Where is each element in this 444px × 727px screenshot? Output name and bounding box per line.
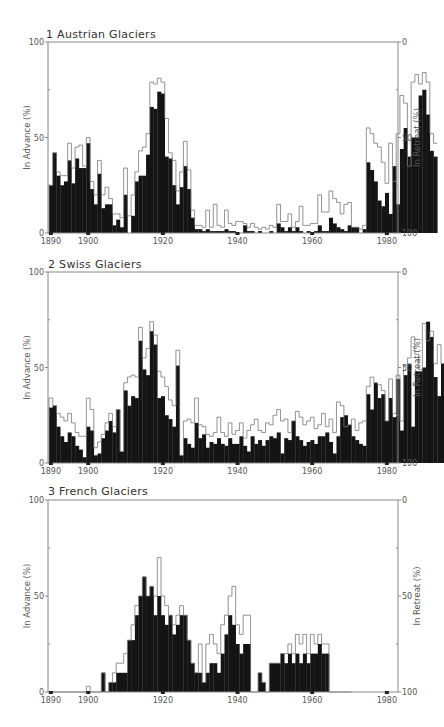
- advancing-bar: [422, 368, 426, 464]
- advancing-bar: [336, 227, 340, 233]
- advancing-bar: [213, 444, 217, 463]
- right-tick-label: 100: [402, 459, 417, 468]
- advancing-bar: [157, 92, 161, 233]
- x-tick: [161, 462, 165, 465]
- advancing-bar: [292, 421, 296, 463]
- advancing-bar: [258, 440, 262, 463]
- advancing-bar: [176, 204, 180, 233]
- advancing-bar: [336, 436, 340, 463]
- x-tick: [385, 691, 389, 694]
- right-tick-label: 100: [402, 229, 417, 238]
- advancing-bar: [243, 446, 247, 463]
- left-tick-label: 100: [29, 38, 44, 47]
- x-tick-label: 1900: [78, 237, 98, 246]
- advancing-bar: [49, 185, 53, 233]
- advancing-bar: [146, 596, 150, 692]
- advancing-bar: [146, 155, 150, 233]
- advancing-bar: [127, 640, 131, 692]
- x-tick: [49, 462, 53, 465]
- right-tick-label: 100: [402, 688, 417, 697]
- advancing-bar: [83, 168, 87, 233]
- x-tick-label: 1980: [377, 467, 397, 476]
- advancing-bar: [105, 204, 109, 233]
- advancing-bar: [228, 438, 232, 463]
- x-tick-label: 1980: [377, 237, 397, 246]
- x-tick-label: 1960: [302, 696, 322, 705]
- advancing-bar: [135, 615, 139, 692]
- advancing-bar: [109, 682, 113, 692]
- advancing-bar: [329, 218, 333, 233]
- advancing-bar: [400, 149, 404, 233]
- advancing-bar: [83, 457, 87, 463]
- x-tick: [49, 232, 53, 235]
- advancing-bar: [292, 663, 296, 692]
- advancing-bar: [363, 446, 367, 463]
- advancing-bar: [295, 654, 299, 692]
- advancing-bar: [127, 406, 131, 463]
- x-tick: [310, 232, 314, 235]
- left-tick-label: 100: [29, 268, 44, 277]
- x-tick: [86, 232, 90, 235]
- advancing-bar: [434, 157, 438, 233]
- advancing-bar: [176, 625, 180, 692]
- advancing-bar: [154, 615, 158, 692]
- x-tick: [385, 462, 389, 465]
- advancing-bar: [198, 438, 202, 463]
- right-tick-label: 0: [402, 38, 407, 47]
- advancing-bar: [49, 408, 53, 463]
- advancing-bar: [288, 654, 292, 692]
- advancing-bar: [239, 654, 243, 692]
- advancing-bar: [322, 654, 326, 692]
- advancing-bar: [224, 634, 228, 692]
- y-axis-label-retreat: In Retreat (%): [412, 566, 422, 625]
- advancing-bar: [288, 440, 292, 463]
- advancing-bar: [325, 432, 329, 463]
- advancing-bar: [150, 107, 154, 233]
- advancing-bar: [366, 162, 370, 233]
- advancing-bar: [266, 440, 270, 463]
- advancing-bar: [370, 410, 374, 463]
- advancing-bar: [131, 216, 135, 233]
- x-tick-label: 1980: [377, 696, 397, 705]
- advancing-bar: [213, 663, 217, 692]
- advancing-bar: [284, 438, 288, 463]
- x-tick: [86, 462, 90, 465]
- advancing-bar: [299, 663, 303, 692]
- advancing-bar: [183, 438, 187, 463]
- advancing-bar: [228, 615, 232, 692]
- advancing-bar: [355, 440, 359, 463]
- y-axis-label-advance: In Advance (%): [22, 335, 32, 400]
- advancing-bar: [422, 90, 426, 233]
- advancing-bar: [191, 448, 195, 463]
- advancing-bar: [79, 168, 83, 233]
- advancing-bar: [239, 436, 243, 463]
- advancing-bar: [389, 214, 393, 233]
- x-tick-label: 1890: [41, 237, 61, 246]
- x-tick-label: 1920: [153, 467, 173, 476]
- advancing-bar: [60, 436, 64, 463]
- x-tick: [236, 462, 240, 465]
- advancing-bar: [64, 181, 68, 233]
- advancing-bar: [206, 448, 210, 463]
- advancing-bar: [310, 440, 314, 463]
- advancing-bar: [71, 183, 75, 233]
- advancing-bar: [79, 450, 83, 463]
- advancing-bar: [94, 204, 98, 233]
- advancing-bar: [378, 201, 382, 233]
- advancing-bar: [366, 394, 370, 463]
- advancing-bar: [112, 225, 116, 233]
- advancing-bar: [333, 223, 337, 233]
- advancing-bar: [299, 440, 303, 463]
- left-tick-label: 50: [34, 592, 44, 601]
- advancing-bar: [120, 227, 124, 233]
- advancing-bar: [75, 159, 79, 233]
- advancing-bar: [288, 227, 292, 233]
- advancing-bar: [295, 436, 299, 463]
- right-tick-label: 0: [402, 268, 407, 277]
- advancing-bar: [206, 229, 210, 233]
- advancing-bar: [385, 421, 389, 463]
- advancing-bar: [277, 663, 281, 692]
- advancing-bar: [269, 663, 273, 692]
- advancing-bar: [269, 436, 273, 463]
- advancing-bar: [262, 446, 266, 463]
